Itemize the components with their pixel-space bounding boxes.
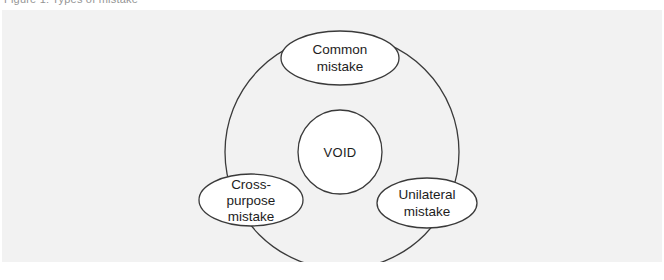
node-common-mistake-label-line2: mistake bbox=[317, 59, 364, 74]
figure-caption-text: Figure 1: Types of mistake bbox=[4, 0, 138, 6]
node-void-label: VOID bbox=[324, 145, 357, 160]
node-cross-purpose-mistake-label-line1: Cross- bbox=[231, 177, 271, 192]
figure-panel: Common mistake Cross- purpose mistake Un… bbox=[2, 10, 662, 262]
node-unilateral-mistake[interactable]: Unilateral mistake bbox=[377, 178, 477, 228]
node-cross-purpose-mistake-label-line3: mistake bbox=[228, 209, 275, 224]
node-common-mistake[interactable]: Common mistake bbox=[281, 31, 399, 85]
node-unilateral-mistake-label-line1: Unilateral bbox=[398, 187, 455, 202]
mistake-types-diagram: Common mistake Cross- purpose mistake Un… bbox=[2, 10, 662, 262]
node-common-mistake-shape bbox=[281, 31, 399, 85]
node-unilateral-mistake-label-line2: mistake bbox=[404, 204, 451, 219]
figure-caption-strip: Figure 1: Types of mistake bbox=[0, 0, 664, 9]
node-unilateral-mistake-shape bbox=[377, 178, 477, 228]
node-void[interactable]: VOID bbox=[298, 110, 382, 194]
node-cross-purpose-mistake[interactable]: Cross- purpose mistake bbox=[199, 174, 303, 226]
node-cross-purpose-mistake-label-line2: purpose bbox=[227, 193, 276, 208]
node-common-mistake-label-line1: Common bbox=[313, 42, 368, 57]
